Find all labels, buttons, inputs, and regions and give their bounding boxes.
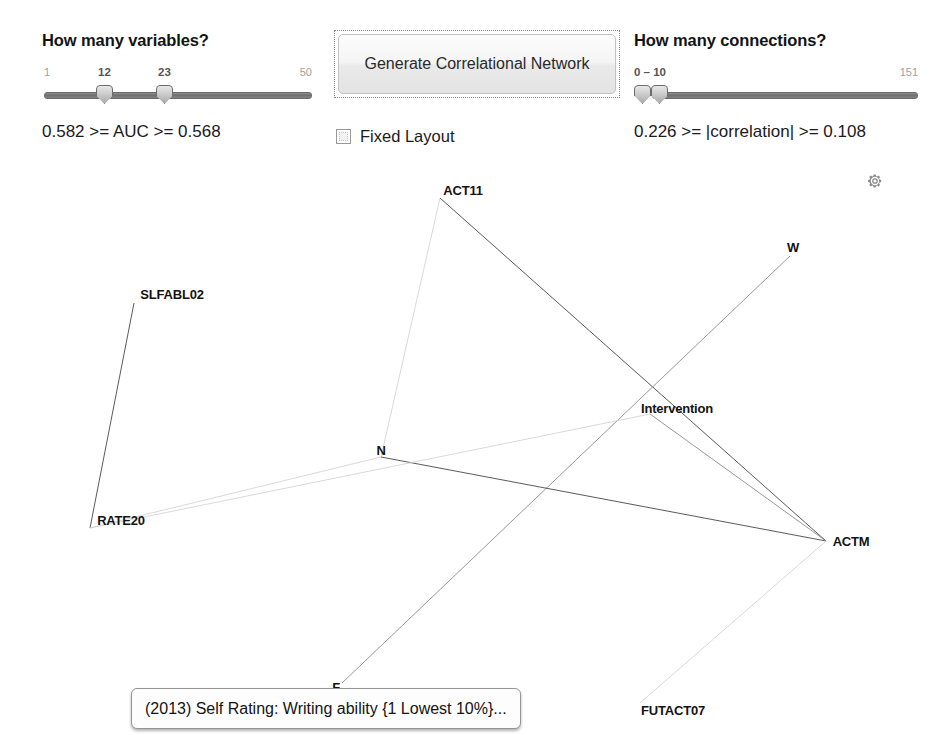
graph-node-slfabl02[interactable]: SLFABL02 bbox=[140, 287, 203, 302]
connections-slider-track[interactable] bbox=[652, 92, 918, 99]
graph-edge bbox=[440, 198, 826, 541]
connections-slider-upper-handle[interactable] bbox=[651, 85, 668, 104]
graph-node-act11[interactable]: ACT11 bbox=[443, 183, 482, 198]
graph-edge bbox=[381, 457, 826, 541]
variables-slider-track[interactable] bbox=[44, 92, 312, 99]
auc-readout: 0.582 >= AUC >= 0.568 bbox=[42, 122, 221, 142]
connections-slider-value-label: 0 – 10 bbox=[634, 66, 666, 78]
connections-range-slider[interactable]: 0 – 10 151 bbox=[634, 66, 920, 108]
graph-node-w[interactable]: W bbox=[787, 240, 799, 255]
generate-button-focus-ring: Generate Correlational Network bbox=[334, 30, 620, 98]
graph-node-futact07[interactable]: FUTACT07 bbox=[641, 703, 705, 718]
correlational-network-graph[interactable]: ACT11WSLFABL02InterventionNRATE20ACTMFFU… bbox=[0, 160, 947, 735]
generate-correlational-network-button[interactable]: Generate Correlational Network bbox=[338, 34, 616, 94]
variables-range-slider[interactable]: 1 12 23 50 bbox=[42, 66, 314, 108]
connections-slider-max-label: 151 bbox=[900, 66, 918, 78]
graph-node-rate20[interactable]: RATE20 bbox=[97, 513, 145, 528]
fixed-layout-label: Fixed Layout bbox=[360, 127, 454, 146]
graph-edge bbox=[640, 541, 826, 703]
graph-edge bbox=[342, 256, 790, 683]
fixed-layout-checkbox[interactable] bbox=[336, 129, 351, 144]
graph-edge bbox=[90, 414, 650, 528]
fixed-layout-checkbox-row[interactable]: Fixed Layout bbox=[336, 127, 454, 146]
variables-slider-lower-value-label: 12 bbox=[98, 66, 111, 78]
correlation-readout: 0.226 >= |correlation| >= 0.108 bbox=[634, 122, 866, 142]
edge-group bbox=[90, 198, 826, 703]
control-bar: How many variables? 1 12 23 50 0.582 >= … bbox=[0, 0, 947, 165]
variables-slider-upper-handle[interactable] bbox=[156, 85, 173, 104]
variables-panel-heading: How many variables? bbox=[42, 31, 209, 50]
variables-slider-upper-value-label: 23 bbox=[158, 66, 171, 78]
graph-edge bbox=[90, 303, 134, 528]
graph-node-intervention[interactable]: Intervention bbox=[641, 401, 713, 416]
graph-node-actm[interactable]: ACTM bbox=[833, 534, 870, 549]
network-edges bbox=[0, 160, 947, 735]
node-tooltip: (2013) Self Rating: Writing ability {1 L… bbox=[131, 688, 521, 729]
connections-slider-lower-handle[interactable] bbox=[634, 85, 651, 104]
graph-node-n[interactable]: N bbox=[376, 443, 385, 458]
variables-slider-min-label: 1 bbox=[44, 66, 50, 78]
variables-slider-max-label: 50 bbox=[300, 66, 312, 78]
graph-edge bbox=[381, 198, 440, 457]
graph-edge bbox=[650, 414, 826, 541]
variables-slider-lower-handle[interactable] bbox=[96, 85, 113, 104]
connections-panel-heading: How many connections? bbox=[634, 31, 826, 50]
